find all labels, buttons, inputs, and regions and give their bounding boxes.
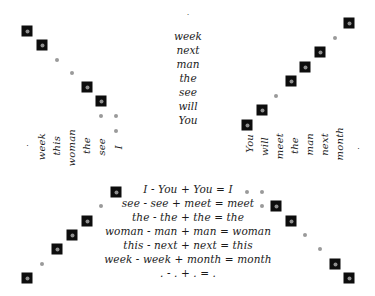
filled-square-marker [344,18,355,29]
left-axis-label-6: I [113,145,124,149]
marker-top-right-5 [274,94,278,98]
gray-dot-marker [274,94,278,98]
left-axis-label-4: the [81,137,92,154]
marker-bottom-right-8 [344,273,355,284]
left-axis-label-0: . [21,144,30,147]
filled-square-marker [22,273,33,284]
filled-square-marker [330,259,341,270]
marker-top-right-6 [257,105,268,116]
filled-square-marker [300,62,311,73]
filled-square-marker [96,96,107,107]
center-word-1: week [174,30,202,42]
marker-bottom-left-3 [67,230,78,241]
center-word-7: You [178,114,197,126]
filled-square-marker [67,230,78,241]
filled-square-marker [286,216,297,227]
marker-top-left-7 [114,114,118,118]
marker-bottom-right-6 [318,247,322,251]
right-axis-label-3: the [289,137,300,154]
filled-square-marker [22,26,33,37]
gray-dot-marker [260,204,264,208]
equation-4: this - next + next = this [123,239,252,251]
marker-top-right-7 [242,120,253,131]
gray-dot-marker [245,190,249,194]
marker-top-left-0 [22,26,33,37]
gray-dot-marker [55,58,59,62]
filled-square-marker [286,76,297,87]
marker-top-left-5 [96,96,107,107]
filled-square-marker [82,216,93,227]
center-word-3: man [177,58,200,70]
left-axis-label-1: week [36,133,47,160]
marker-bottom-left-0 [111,187,122,198]
right-axis-label-6: month [334,127,345,160]
marker-bottom-right-5 [303,233,307,237]
word-analogy-figure: . week next man the see will You . week … [0,0,375,296]
filled-square-marker [271,201,282,212]
marker-top-right-3 [300,62,311,73]
filled-square-marker [82,82,93,93]
marker-bottom-right-4 [286,216,297,227]
gray-dot-marker [99,204,103,208]
equation-5: week - week + month = month [104,253,271,265]
gray-dot-marker [260,190,264,194]
right-axis-label-7: . [352,147,361,150]
center-word-6: will [178,100,197,112]
left-axis-label-3: woman [66,129,77,166]
right-axis-label-4: man [304,133,315,156]
marker-top-left-1 [37,40,48,51]
gray-dot-marker [318,247,322,251]
filled-square-marker [52,244,63,255]
right-axis-label-5: next [319,133,330,156]
equation-1: see - see + meet = meet [122,197,254,209]
gray-dot-marker [333,36,337,40]
marker-bottom-right-3 [271,201,282,212]
filled-square-marker [344,273,355,284]
filled-square-marker [257,105,268,116]
marker-top-left-3 [70,71,74,75]
marker-bottom-left-2 [82,216,93,227]
marker-bottom-right-2 [260,204,264,208]
marker-top-right-1 [333,36,337,40]
marker-bottom-right-7 [330,259,341,270]
marker-bottom-left-1 [99,204,103,208]
center-word-5: see [179,86,197,98]
filled-square-marker [111,187,122,198]
marker-top-left-4 [82,82,93,93]
marker-bottom-left-6 [22,273,33,284]
marker-bottom-right-0 [245,190,249,194]
right-axis-label-0: You [244,134,255,153]
equation-0: I - You + You = I [143,183,232,195]
gray-dot-marker [114,114,118,118]
marker-top-right-0 [344,18,355,29]
center-word-0: . [187,8,190,17]
gray-dot-marker [99,114,103,118]
marker-top-left-8 [114,129,118,133]
filled-square-marker [315,47,326,58]
gray-dot-marker [303,233,307,237]
gray-dot-marker [40,262,44,266]
gray-dot-marker [70,71,74,75]
filled-square-marker [242,120,253,131]
equation-3: woman - man + man = woman [105,225,271,237]
marker-bottom-left-4 [52,244,63,255]
marker-top-right-2 [315,47,326,58]
equation-2: the - the + the = the [132,211,244,223]
left-axis-label-5: see [96,138,107,156]
center-word-4: the [179,72,196,84]
gray-dot-marker [114,129,118,133]
marker-bottom-right-1 [260,190,264,194]
center-word-2: next [176,44,199,56]
right-axis-label-1: will [259,137,270,156]
filled-square-marker [37,40,48,51]
marker-top-right-4 [286,76,297,87]
marker-bottom-left-5 [40,262,44,266]
equation-6: . - . + . = . [160,267,216,279]
left-axis-label-2: this [51,136,62,156]
marker-top-left-2 [55,58,59,62]
marker-top-left-6 [99,114,103,118]
right-axis-label-2: meet [274,133,285,159]
